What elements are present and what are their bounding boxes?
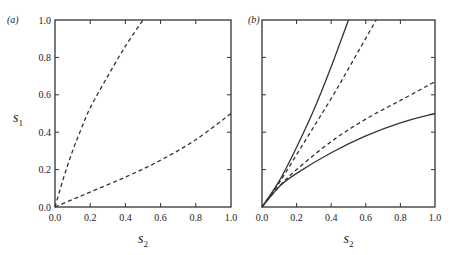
x-tick-label: 0.4: [325, 212, 338, 223]
x-tick-label: 0.0: [49, 212, 62, 223]
x-tick-label: 0.8: [394, 212, 407, 223]
y-axis-label: s1: [13, 110, 23, 128]
panel-a: 0.00.00.20.20.40.40.60.60.80.81.01.0(a)s…: [7, 14, 237, 249]
x-tick-label: 0.8: [190, 212, 203, 223]
curve-lower-dashed: [55, 114, 231, 208]
curve-upper-dashed: [55, 20, 143, 207]
x-axis-label: s2: [344, 231, 354, 249]
y-tick-label: 0.8: [39, 52, 52, 63]
x-tick-label: 0.6: [154, 212, 167, 223]
y-tick-label: 0.2: [39, 164, 52, 175]
curve-lower-solid: [262, 114, 435, 208]
panel-b: 0.00.20.40.60.81.0(b)s2: [248, 14, 441, 249]
panel-label: (a): [7, 14, 19, 26]
x-tick-label: 0.2: [290, 212, 303, 223]
y-tick-label: 1.0: [39, 15, 52, 26]
x-axis-label: s2: [138, 231, 148, 249]
y-tick-label: 0.4: [39, 127, 52, 138]
curve-upper-dashed: [262, 20, 376, 207]
x-tick-label: 0.6: [360, 212, 373, 223]
chart-svg: 0.00.00.20.20.40.40.60.60.80.81.01.0(a)s…: [0, 0, 458, 255]
figure: 0.00.00.20.20.40.40.60.60.80.81.01.0(a)s…: [0, 0, 458, 255]
x-tick-label: 1.0: [429, 212, 442, 223]
x-tick-label: 1.0: [225, 212, 238, 223]
y-tick-label: 0.0: [39, 202, 52, 213]
x-tick-label: 0.0: [256, 212, 269, 223]
y-tick-label: 0.6: [39, 89, 52, 100]
plot-frame: [55, 20, 231, 207]
curve-upper-solid: [262, 20, 349, 207]
panel-label: (b): [248, 14, 260, 26]
x-tick-label: 0.2: [84, 212, 97, 223]
x-tick-label: 0.4: [119, 212, 132, 223]
